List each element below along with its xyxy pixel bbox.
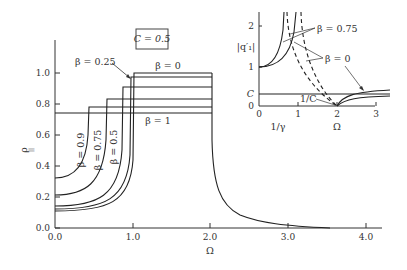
inset-curve-beta-0.75 (259, 12, 284, 67)
y-tick-label: 1.0 (36, 68, 51, 78)
x-tick-label: 0.0 (48, 232, 63, 242)
label-beta-0: β = 0 (155, 60, 181, 71)
inset-label-beta-0.75: β = 0.75 (317, 23, 358, 34)
svg-text:||: || (27, 148, 35, 152)
y-tick-label: 0.6 (36, 130, 51, 140)
inset-x-tick-label: 0 (256, 109, 262, 119)
label-beta-0.75: β = 0.75 (92, 130, 103, 171)
inset-plot: 2 1 0 C |q′₁| 0 1 2 3 1/γ Ω 1/C β = 0.75… (237, 12, 390, 132)
parameter-label: C = 0.5 (134, 33, 170, 44)
arrowhead-icon (126, 74, 131, 79)
x-tick-label: 2.0 (203, 232, 218, 242)
x-tick-label: 1.0 (126, 232, 141, 242)
x-axis-label: Ω (206, 245, 214, 256)
x-tick-label: 3.0 (281, 232, 296, 242)
x-tick-label: 4.0 (359, 232, 374, 242)
inset-label-beta-0: β = 0 (325, 53, 351, 64)
label-beta-0.9: β = 0.9 (75, 133, 86, 168)
inset-c-mark: C (247, 88, 255, 99)
y-tick-label: 0.4 (36, 161, 51, 171)
label-beta-1: β = 1 (145, 115, 171, 126)
inset-x-tick-label: 2 (334, 109, 340, 119)
inset-x-tick-label: 3 (373, 109, 379, 119)
y-tick-label: 0.8 (36, 99, 51, 109)
label-beta-0.5: β = 0.5 (108, 130, 119, 165)
inset-y-tick-label: 0 (248, 101, 254, 111)
inset-y-axis-label: |q′₁| (237, 41, 255, 53)
inset-invc-label: 1/C (300, 93, 317, 104)
y-tick-label: 0.2 (36, 192, 50, 202)
inset-gamma-label: 1/γ (271, 121, 286, 132)
figure: 0.0 0.2 0.4 0.6 0.8 1.0 0.0 1.0 2.0 3.0 … (0, 0, 407, 270)
arrowhead-icon (359, 86, 364, 91)
y-axis-label: ρ || (18, 147, 35, 153)
inset-y-tick-label: 2 (248, 21, 254, 31)
x-ticks: 0.0 1.0 2.0 3.0 4.0 (48, 223, 374, 242)
inset-x-tick-label: 1 (295, 109, 301, 119)
inset-curve-beta-0 (259, 12, 296, 67)
inset-omega-label: Ω (333, 121, 341, 132)
inset-y-tick-label: 1 (248, 62, 254, 72)
label-beta-0.25: β = 0.25 (75, 56, 116, 67)
y-ticks: 0.0 0.2 0.4 0.6 0.8 1.0 (36, 68, 60, 233)
